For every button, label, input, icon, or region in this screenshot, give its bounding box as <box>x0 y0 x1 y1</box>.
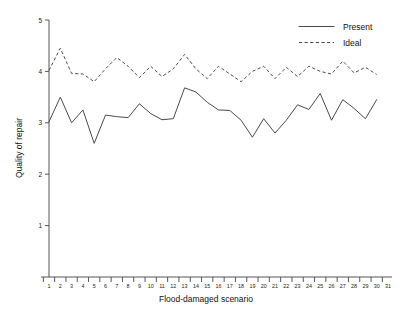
x-tick-label: 26 <box>329 283 335 289</box>
chart-container: 12345 1234567891011121314151617181920212… <box>0 0 413 315</box>
x-tick-label: 20 <box>261 283 267 289</box>
x-tick-label: 29 <box>362 283 368 289</box>
x-tick-label: 23 <box>295 283 301 289</box>
x-tick-label: 19 <box>249 283 255 289</box>
x-tick-label: 30 <box>374 283 380 289</box>
y-tick-label: 5 <box>38 17 42 24</box>
x-tick-label: 6 <box>104 283 107 289</box>
y-axis-ticks <box>45 20 49 226</box>
x-axis-title: Flood-damaged scenario <box>159 294 253 304</box>
legend-label-present: Present <box>343 22 373 32</box>
x-tick-label: 5 <box>93 283 96 289</box>
x-tick-label: 28 <box>351 283 357 289</box>
legend: Present Ideal <box>299 22 373 48</box>
x-tick-label: 24 <box>306 283 312 289</box>
x-tick-label: 27 <box>340 283 346 289</box>
y-tick-label: 1 <box>38 222 42 229</box>
x-tick-label: 14 <box>193 283 199 289</box>
y-tick-label: 3 <box>38 119 42 126</box>
x-tick-label: 7 <box>115 283 118 289</box>
series-line-present <box>49 88 377 144</box>
x-tick-label: 25 <box>317 283 323 289</box>
y-tick-label: 4 <box>38 68 42 75</box>
x-tick-label: 9 <box>138 283 141 289</box>
plot-area: 12345 1234567891011121314151617181920212… <box>38 17 392 289</box>
x-tick-label: 18 <box>238 283 244 289</box>
x-tick-label: 1 <box>48 283 51 289</box>
x-tick-label: 17 <box>227 283 233 289</box>
y-axis-title: Quality of repair <box>14 118 24 178</box>
x-tick-label: 3 <box>70 283 73 289</box>
x-tick-label: 4 <box>81 283 84 289</box>
x-tick-label: 2 <box>59 283 62 289</box>
x-axis-ticks <box>43 277 382 282</box>
y-tick-label: 2 <box>38 171 42 178</box>
x-tick-label: 8 <box>127 283 130 289</box>
x-tick-label: 22 <box>283 283 289 289</box>
x-axis-tick-labels: 1234567891011121314151617181920212223242… <box>48 283 392 289</box>
x-tick-label: 13 <box>182 283 188 289</box>
x-tick-label: 12 <box>170 283 176 289</box>
legend-label-ideal: Ideal <box>343 38 362 48</box>
x-tick-label: 21 <box>272 283 278 289</box>
series-line-ideal <box>49 48 377 81</box>
x-tick-label: 31 <box>385 283 391 289</box>
x-tick-label: 15 <box>204 283 210 289</box>
x-tick-label: 16 <box>216 283 222 289</box>
y-axis-tick-labels: 12345 <box>38 17 42 230</box>
x-tick-label: 10 <box>148 283 154 289</box>
x-tick-label: 11 <box>159 283 165 289</box>
line-chart: 12345 1234567891011121314151617181920212… <box>0 0 413 315</box>
